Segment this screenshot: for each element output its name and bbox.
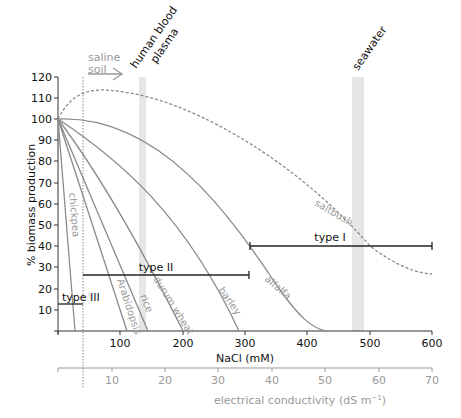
- svg-text:120: 120: [31, 71, 52, 84]
- svg-text:50: 50: [318, 374, 332, 387]
- x-tick-labels: 100 200 300 400 500 600: [110, 337, 443, 350]
- seawater-band: [352, 77, 364, 331]
- svg-text:500: 500: [360, 337, 381, 350]
- y-axis: [54, 77, 58, 334]
- type-i-label: type I: [314, 231, 345, 244]
- svg-text:50: 50: [38, 219, 52, 232]
- x-axis-title: NaCl (mM): [216, 352, 274, 365]
- svg-text:10: 10: [38, 304, 52, 317]
- chickpea-label: chickpea: [67, 192, 82, 237]
- y-axis-title: % biomass production: [25, 144, 38, 266]
- conductivity-axis: [58, 368, 432, 372]
- curve-labels: chickpea Arabidopsis rice durum wheat ba…: [67, 192, 355, 337]
- species-curves: [58, 90, 432, 331]
- svg-text:40: 40: [265, 374, 279, 387]
- durum-wheat-label: durum wheat: [151, 274, 196, 337]
- svg-text:110: 110: [31, 92, 52, 105]
- conductivity-axis-title: electrical conductivity (dS m−1): [214, 394, 386, 407]
- type-iii-label: type III: [62, 291, 100, 304]
- saltbush-label: saltbush: [313, 197, 355, 228]
- svg-text:30: 30: [38, 261, 52, 274]
- svg-text:10: 10: [105, 374, 119, 387]
- svg-text:100: 100: [110, 337, 131, 350]
- svg-text:20: 20: [38, 283, 52, 296]
- svg-text:60: 60: [372, 374, 386, 387]
- svg-text:20: 20: [158, 374, 172, 387]
- salt-tolerance-chart: saline soil human blood plasma seawater …: [0, 0, 461, 418]
- svg-text:30: 30: [211, 374, 225, 387]
- alfalfa-label: alfalfa: [263, 273, 294, 301]
- svg-text:60: 60: [38, 198, 52, 211]
- svg-text:100: 100: [31, 113, 52, 126]
- saline-soil-label-2: soil: [88, 63, 107, 76]
- type-ii-label: type II: [139, 261, 174, 274]
- svg-text:40: 40: [38, 240, 52, 253]
- svg-text:400: 400: [297, 337, 318, 350]
- seawater-label: seawater: [350, 23, 390, 72]
- svg-text:90: 90: [38, 134, 52, 147]
- svg-text:200: 200: [173, 337, 194, 350]
- svg-text:70: 70: [38, 177, 52, 190]
- conductivity-tick-labels: 10 20 30 40 50 60 70: [105, 374, 439, 387]
- svg-text:300: 300: [235, 337, 256, 350]
- human-blood-plasma-band: [139, 77, 146, 331]
- x-axis: [54, 331, 432, 335]
- svg-text:70: 70: [425, 374, 439, 387]
- svg-text:600: 600: [422, 337, 443, 350]
- svg-text:80: 80: [38, 155, 52, 168]
